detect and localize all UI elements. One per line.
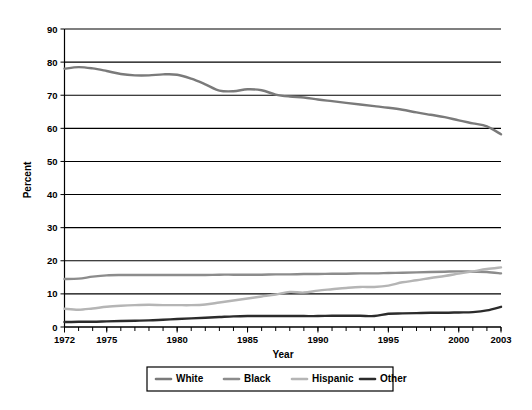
y-tick-label: 40 (47, 189, 58, 200)
series-line-white (65, 67, 502, 134)
y-axis-title-group: Percent (22, 161, 33, 198)
line-chart: 0102030405060708090 19721975198019851990… (0, 0, 532, 410)
y-tick-label: 30 (47, 222, 58, 233)
x-axis-title: Year (272, 349, 293, 360)
x-tick-label: 1995 (378, 334, 400, 345)
y-axis-title: Percent (22, 161, 33, 198)
gridlines-group (65, 29, 502, 327)
y-tick-label: 90 (47, 24, 58, 35)
y-tick-label: 60 (47, 123, 58, 134)
legend-label-other: Other (380, 373, 407, 384)
x-tick-label: 2000 (448, 334, 469, 345)
x-tick-label: 1990 (307, 334, 328, 345)
x-tick-label: 1972 (54, 334, 75, 345)
y-tick-label: 70 (47, 90, 58, 101)
y-tick-label: 10 (47, 288, 58, 299)
x-axis-title-group: Year (272, 349, 293, 360)
x-tick-label: 1985 (237, 334, 259, 345)
legend: WhiteBlackHispanicOther (147, 367, 407, 391)
x-axis-group: 19721975198019851990199520002003 (54, 327, 512, 345)
legend-label-white: White (176, 373, 204, 384)
y-tick-label: 20 (47, 255, 58, 266)
legend-label-hispanic: Hispanic (312, 373, 354, 384)
legend-label-black: Black (244, 373, 271, 384)
x-tick-label: 1975 (96, 334, 118, 345)
chart-canvas: 0102030405060708090 19721975198019851990… (0, 0, 532, 410)
series-line-other (65, 307, 502, 322)
y-tick-label: 80 (47, 57, 58, 68)
y-tick-label: 50 (47, 156, 58, 167)
x-tick-label: 1980 (167, 334, 188, 345)
y-tick-label: 0 (52, 322, 57, 333)
x-tick-label: 2003 (490, 334, 511, 345)
y-axis-group: 0102030405060708090 (47, 24, 65, 333)
